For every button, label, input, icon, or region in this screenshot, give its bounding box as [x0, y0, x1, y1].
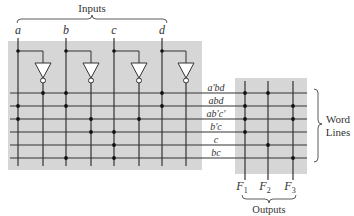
- word-line-label: ab′c′: [207, 108, 227, 119]
- and-connection: [41, 91, 45, 95]
- pla-diagram: Inputsabcda′bdabdab′c′b′ccbcF1F2F3Output…: [0, 0, 354, 216]
- input-label-d: d: [159, 23, 166, 37]
- and-connection: [89, 117, 93, 121]
- inputs-label: Inputs: [78, 2, 106, 14]
- and-connection: [160, 104, 164, 108]
- or-connection: [291, 156, 295, 160]
- input-label-b: b: [63, 23, 69, 37]
- and-connection: [112, 130, 116, 134]
- or-connection: [243, 91, 247, 95]
- and-connection: [64, 104, 68, 108]
- and-connection: [16, 104, 20, 108]
- outputs-label: Outputs: [252, 204, 285, 215]
- word-line-label: b′c: [210, 121, 222, 132]
- word-line-label: a′bd: [207, 82, 225, 93]
- inputs-brace: [17, 15, 167, 23]
- or-connection: [243, 130, 247, 134]
- or-connection: [291, 104, 295, 108]
- and-connection: [137, 117, 141, 121]
- word-line-label: bc: [211, 147, 221, 158]
- and-connection: [112, 143, 116, 147]
- input-label-a: a: [15, 23, 21, 37]
- or-connection: [291, 117, 295, 121]
- and-connection: [112, 156, 116, 160]
- output-label: F2: [258, 179, 270, 195]
- and-connection: [16, 117, 20, 121]
- input-label-c: c: [111, 23, 117, 37]
- and-connection: [89, 130, 93, 134]
- word-lines-label-2: Lines: [326, 126, 350, 138]
- or-connection: [266, 91, 270, 95]
- output-label: F1: [235, 179, 247, 195]
- word-line-label: abd: [209, 95, 225, 106]
- word-line-label: c: [214, 134, 219, 145]
- or-connection: [243, 117, 247, 121]
- and-connection: [64, 91, 68, 95]
- word-lines-label-1: Word: [326, 113, 351, 125]
- or-connection: [266, 143, 270, 147]
- output-label: F3: [283, 179, 295, 195]
- and-connection: [64, 156, 68, 160]
- word-lines-brace: [314, 89, 322, 162]
- and-connection: [160, 91, 164, 95]
- outputs-brace: [242, 195, 296, 203]
- or-connection: [243, 104, 247, 108]
